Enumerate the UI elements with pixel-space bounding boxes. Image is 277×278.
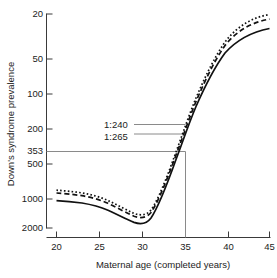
x-tick-label-45: 45	[264, 241, 275, 252]
x-axis-tick-labels: 20 25 30 35 40 45	[51, 241, 275, 252]
annotation-label-1-240: 1:240	[104, 119, 128, 130]
y-tick-label-1000: 1000	[22, 193, 43, 204]
y-tick-label-20: 20	[32, 8, 43, 19]
x-tick-label-25: 25	[94, 241, 105, 252]
curve-group	[57, 15, 270, 224]
y-axis-ticks	[47, 14, 53, 228]
y-tick-label-200: 200	[27, 123, 43, 134]
x-tick-label-20: 20	[51, 241, 62, 252]
y-axis-title: Down's syndrome prevalence	[5, 62, 16, 186]
x-axis-ticks	[57, 232, 270, 238]
y-tick-label-100: 100	[27, 88, 43, 99]
x-tick-label-40: 40	[223, 241, 234, 252]
series-middle-curve-dashed	[57, 19, 270, 218]
series-lower-curve-solid	[57, 29, 270, 224]
y-tick-label-353: 353	[27, 145, 43, 156]
x-axis-title: Maternal age (completed years)	[96, 259, 230, 270]
y-tick-label-2000: 2000	[22, 222, 43, 233]
series-upper-curve-dotted	[57, 15, 270, 215]
y-axis-tick-labels: 20 50 100 200 353 500 1000 2000	[22, 8, 43, 233]
x-tick-label-35: 35	[180, 241, 191, 252]
y-tick-label-500: 500	[27, 158, 43, 169]
x-tick-label-30: 30	[137, 241, 148, 252]
annotation-label-1-265: 1:265	[104, 131, 128, 142]
y-tick-label-50: 50	[32, 53, 43, 64]
chart-canvas: 20 50 100 200 353 500 1000 2000 20 25 30…	[0, 0, 277, 278]
down-syndrome-prevalence-chart: 20 50 100 200 353 500 1000 2000 20 25 30…	[0, 0, 277, 278]
